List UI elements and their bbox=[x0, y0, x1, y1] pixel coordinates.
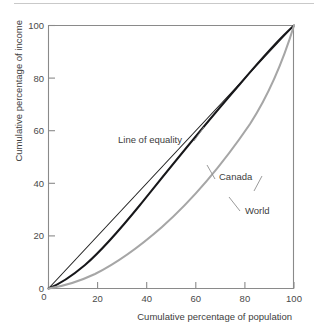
y-axis-tick-labels: 100 80 60 40 20 0 bbox=[28, 20, 44, 294]
x-tick-label-60: 60 bbox=[191, 293, 202, 304]
y-tick-label-100: 100 bbox=[28, 20, 44, 31]
x-tick-label-100: 100 bbox=[286, 293, 302, 304]
x-tick-label-40: 40 bbox=[141, 293, 152, 304]
chart-canvas: 100 80 60 40 20 0 0 20 40 60 80 100 bbox=[0, 0, 323, 331]
series-label-world: World bbox=[245, 205, 270, 216]
annotation-leaders bbox=[194, 127, 262, 211]
y-tick-label-40: 40 bbox=[33, 178, 44, 189]
leader-line-of-equality bbox=[194, 127, 204, 141]
x-tick-label-0: 0 bbox=[41, 291, 46, 302]
series-label-line-of-equality: Line of equality bbox=[118, 134, 182, 145]
leader-world bbox=[229, 197, 240, 211]
series-label-canada: Canada bbox=[219, 171, 253, 182]
x-tick-label-80: 80 bbox=[240, 293, 251, 304]
y-tick-label-80: 80 bbox=[33, 73, 44, 84]
x-axis-title: Cumulative percentage of population bbox=[137, 311, 292, 322]
y-tick-label-60: 60 bbox=[33, 125, 44, 136]
y-axis-title: Cumulative percentage of income bbox=[13, 20, 24, 162]
x-tick-label-20: 20 bbox=[92, 293, 103, 304]
y-axis-ticks bbox=[49, 26, 56, 289]
lorenz-curve-chart: 100 80 60 40 20 0 0 20 40 60 80 100 bbox=[0, 0, 323, 331]
y-tick-label-20: 20 bbox=[33, 230, 44, 241]
x-axis-tick-labels: 0 20 40 60 80 100 bbox=[41, 291, 302, 304]
x-axis-ticks bbox=[49, 282, 295, 289]
leader-canada-right bbox=[254, 176, 262, 191]
